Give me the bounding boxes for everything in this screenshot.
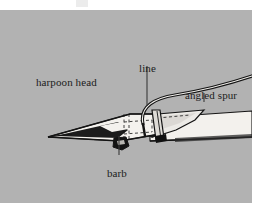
barb-group [113,137,129,150]
top-text-remnant [76,0,88,7]
label-harpoon-head: harpoon head [36,76,97,88]
label-barb: barb [107,167,127,179]
label-angled-spur: angled spur [185,89,237,101]
label-line: line [139,62,156,74]
figure-panel: harpoon head line angled spur barb [0,10,252,203]
page-canvas: harpoon head line angled spur barb [0,0,271,221]
